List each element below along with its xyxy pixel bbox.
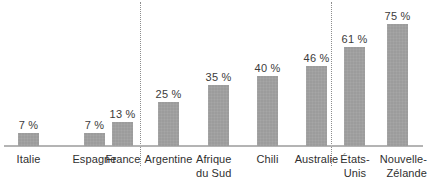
bar-chart: 7 % Italie 7 % Espagne 13 % France 25 % … (0, 0, 427, 183)
value-label-france: 13 % (102, 108, 143, 120)
category-label-argentine: Argentine (143, 152, 194, 166)
value-label-espagne: 7 % (74, 119, 115, 131)
value-label-italie: 7 % (8, 119, 49, 131)
bar-argentine (158, 102, 179, 146)
group-separator-2 (331, 2, 332, 166)
category-label-france: France (100, 152, 146, 166)
plot-area: 7 % Italie 7 % Espagne 13 % France 25 % … (0, 0, 427, 183)
bar-australie (306, 66, 327, 146)
value-label-australie: 46 % (296, 52, 337, 64)
bar-chili (257, 76, 278, 146)
bar-france (112, 122, 133, 146)
group-separator-1 (140, 2, 141, 166)
bar-italie (18, 133, 39, 146)
category-label-nouvelle-zelande: Nouvelle- Zélande (373, 152, 427, 180)
value-label-afrique-du-sud: 35 % (198, 71, 239, 83)
bar-etats-unis (344, 47, 365, 146)
value-label-etats-unis: 61 % (334, 33, 375, 45)
bar-nouvelle-zelande (387, 24, 408, 146)
value-label-chili: 40 % (247, 62, 288, 74)
bar-espagne (84, 133, 105, 146)
value-label-argentine: 25 % (148, 88, 189, 100)
bar-afrique-du-sud (208, 85, 229, 146)
category-label-italie: Italie (0, 152, 59, 166)
value-label-nouvelle-zelande: 75 % (377, 10, 418, 22)
